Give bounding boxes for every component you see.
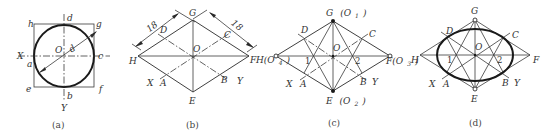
dimension-left-value: 18 — [144, 19, 159, 34]
label-g: g — [96, 19, 102, 29]
caption-d: (d) — [469, 118, 482, 128]
label-O: O — [55, 45, 63, 55]
caption-b: (b) — [186, 120, 199, 130]
center-O1-marker — [331, 19, 335, 23]
label-d-top: d — [67, 13, 73, 23]
label-H: H — [128, 56, 137, 66]
panel-d: G D C O H F 1 2 X A B Y E (d) — [410, 6, 540, 128]
caption-c: (c) — [328, 118, 340, 128]
label-A: A — [442, 79, 450, 89]
label-A: A — [299, 79, 307, 89]
label-e: e — [26, 84, 31, 94]
center-E-marker — [473, 87, 477, 91]
label-Y: Y — [372, 77, 379, 87]
panel-c: G (O 1 ) D C O H(O 4 ) F(O 3 ) 1 2 X A B… — [255, 2, 419, 128]
label-H-O4: H(O 4 ) — [255, 49, 291, 68]
label-Y: Y — [514, 78, 521, 88]
label-c: c — [98, 51, 103, 61]
arrowhead-icon — [90, 31, 97, 38]
label-diameter: d — [67, 43, 78, 55]
label-X: X — [285, 79, 293, 89]
figure-canvas: h d g X a c e f b Y O d (a) 18 — [0, 0, 554, 137]
label-H: H — [410, 55, 419, 65]
label-G-O1: G (O 1 ) — [326, 2, 367, 21]
label-point-2: 2 — [497, 55, 502, 65]
construction-diagram: h d g X a c e f b Y O d (a) 18 — [0, 0, 554, 137]
label-Y: Y — [237, 76, 244, 86]
center-O-marker — [474, 54, 476, 56]
label-F: F — [532, 55, 540, 65]
center-O-marker — [332, 55, 334, 57]
label-E: E — [470, 94, 478, 104]
center-G-marker — [473, 18, 477, 22]
panel-b: 18 18 G D C H F O X A B Y E (b) — [128, 8, 257, 130]
label-point-1: 1 — [305, 56, 310, 66]
diameter-line — [40, 32, 96, 72]
label-O: O — [193, 44, 201, 54]
caption-a: (a) — [52, 120, 64, 130]
label-f: f — [98, 84, 104, 94]
label-X: X — [16, 51, 24, 61]
label-D: D — [445, 26, 453, 36]
label-h: h — [28, 19, 34, 29]
label-X: X — [428, 79, 436, 89]
label-C: C — [224, 30, 231, 40]
label-A: A — [159, 78, 167, 88]
label-B: B — [501, 78, 509, 88]
arrowhead-icon — [39, 67, 46, 73]
label-G: G — [189, 8, 196, 18]
label-E-O2: E (O 2 ) — [325, 90, 366, 109]
label-E: E — [188, 96, 196, 106]
panel-a: h d g X a c e f b Y O d (a) — [16, 13, 110, 130]
label-D: D — [300, 25, 308, 35]
label-D: D — [159, 25, 167, 35]
label-O: O — [475, 42, 483, 52]
label-C: C — [369, 29, 376, 39]
label-X: X — [146, 78, 154, 88]
label-C: C — [512, 30, 519, 40]
label-G: G — [471, 6, 478, 16]
label-O: O — [333, 43, 341, 53]
label-b: b — [67, 91, 73, 101]
dimension-line-left — [136, 14, 178, 46]
label-B: B — [359, 77, 367, 87]
label-Y: Y — [61, 103, 68, 113]
label-point-2: 2 — [355, 56, 360, 66]
label-B: B — [220, 75, 228, 85]
label-point-1: 1 — [447, 55, 452, 65]
label-a: a — [27, 59, 32, 69]
